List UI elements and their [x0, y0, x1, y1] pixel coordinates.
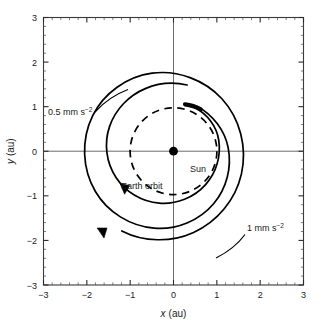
leader-line-high-thrust [216, 235, 245, 259]
x-axis-title-var: x [160, 308, 167, 319]
x-tick-label-2: 2 [258, 290, 263, 300]
x-tick-label-3: 3 [301, 290, 306, 300]
y-axis-title-var: y [5, 158, 16, 165]
y-tick-label-neg2: −2 [27, 236, 37, 246]
x-tick-label-1: 1 [214, 290, 219, 300]
y-tick-label-1: 1 [32, 102, 37, 112]
x-axis-title-unit: (au) [169, 308, 187, 319]
accel-low-base: 0.5 mm s [48, 107, 86, 117]
accel-low-exponent: −2 [85, 106, 93, 113]
accel-high-label: 1 mm s−2 [247, 222, 284, 234]
spiral-high-arrowhead [97, 228, 107, 238]
earth-orbit-label: Earth orbit [121, 181, 163, 191]
y-tick-label-neg1: −1 [27, 191, 37, 201]
sun-label: Sun [190, 164, 206, 174]
y-axis-title: y(au) [5, 138, 16, 165]
x-axis-title: x(au) [160, 308, 187, 319]
y-tick-label-3: 3 [32, 13, 37, 23]
y-tick-label-2: 2 [32, 58, 37, 68]
leader-line-low-thrust [95, 90, 128, 113]
spiral-trajectory-plot: Sun Earth orbit 0.5 mm s−2 1 mm s−2 −3 −… [0, 0, 327, 325]
y-tick-label-neg3: −3 [27, 281, 37, 291]
y-tick-label-0: 0 [32, 147, 37, 157]
figure-container: Sun Earth orbit 0.5 mm s−2 1 mm s−2 −3 −… [0, 0, 327, 325]
accel-high-base: 1 mm s [247, 223, 277, 233]
accel-high-exponent: −2 [277, 222, 285, 229]
spacecraft-start-marker [185, 104, 201, 109]
x-tick-label-neg2: −2 [82, 290, 92, 300]
x-tick-label-0: 0 [171, 290, 176, 300]
y-axis-title-unit: (au) [5, 138, 16, 156]
x-tick-label-neg3: −3 [38, 290, 48, 300]
x-tick-label-neg1: −1 [125, 290, 135, 300]
sun-marker [169, 147, 178, 156]
accel-low-label: 0.5 mm s−2 [48, 106, 93, 118]
